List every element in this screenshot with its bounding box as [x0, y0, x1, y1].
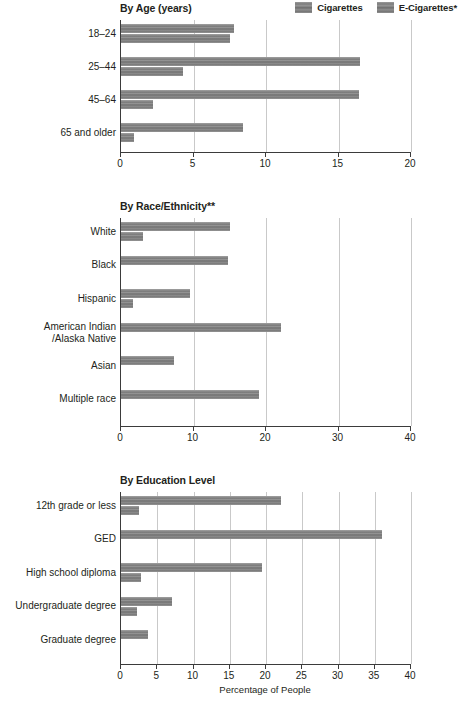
- panel-title: By Education Level: [120, 474, 215, 486]
- plot-area-by-age: 18–2425–4445–6465 and older: [120, 20, 411, 153]
- bar-row: Graduate degree: [121, 630, 411, 649]
- bar-row: GED: [121, 530, 411, 549]
- axis-tick: [374, 665, 375, 669]
- axis-tick: [193, 427, 194, 431]
- axis-tick: [120, 427, 121, 431]
- plot-area-by-education-level: 12th grade or lessGEDHigh school diploma…: [120, 492, 411, 665]
- bar-row: Asian: [121, 356, 411, 375]
- category-label: Graduate degree: [40, 634, 116, 646]
- axis-tick: [120, 153, 121, 157]
- bar-ecigarettes: [121, 299, 133, 308]
- bar-row: 12th grade or less: [121, 496, 411, 515]
- gridline: [411, 492, 412, 664]
- bar-cigarettes: [121, 222, 230, 231]
- legend-swatch-ecigarettes: [377, 2, 394, 13]
- legend-item-cigarettes: Cigarettes: [295, 2, 362, 13]
- axis-tick: [410, 427, 411, 431]
- category-label: Undergraduate degree: [15, 600, 116, 612]
- axis-tick-label: 40: [404, 670, 415, 681]
- bar-row: High school diploma: [121, 563, 411, 582]
- category-label: 18–24: [88, 28, 116, 40]
- panel-header: By Education Level: [0, 472, 461, 492]
- bar-row: 25–44: [121, 57, 411, 76]
- category-label: 12th grade or less: [36, 500, 116, 512]
- axis-tick-label: 30: [332, 432, 343, 443]
- axis-tick: [229, 665, 230, 669]
- gridline: [411, 218, 412, 426]
- panel-title: By Age (years): [120, 2, 192, 14]
- bar-row: White: [121, 222, 411, 241]
- legend-label-ecigarettes: E-Cigarettes*: [399, 2, 457, 13]
- category-label: Black: [92, 259, 116, 271]
- panel-header: By Race/Ethnicity**: [0, 198, 461, 218]
- axis-tick: [193, 153, 194, 157]
- axis-tick-label: 5: [153, 670, 159, 681]
- x-axis-title: Percentage of People: [219, 684, 310, 695]
- axis-tick-label: 35: [368, 670, 379, 681]
- bar-row: American Indian/Alaska Native: [121, 323, 411, 342]
- bar-row: Hispanic: [121, 289, 411, 308]
- axis-tick: [338, 427, 339, 431]
- chart-panel-by-race-ethnicity: By Race/Ethnicity** WhiteBlackHispanicAm…: [0, 198, 461, 447]
- bar-cigarettes: [121, 597, 172, 606]
- category-label: GED: [94, 533, 116, 545]
- category-label: Asian: [91, 360, 116, 372]
- category-label: American Indian/Alaska Native: [44, 321, 116, 344]
- bar-cigarettes: [121, 289, 190, 298]
- category-label: 45–64: [88, 94, 116, 106]
- axis-tick: [338, 665, 339, 669]
- bar-cigarettes: [121, 323, 281, 332]
- bar-ecigarettes: [121, 506, 139, 515]
- category-label: Multiple race: [59, 393, 116, 405]
- category-label: High school diploma: [26, 567, 116, 579]
- bar-row: Undergraduate degree: [121, 597, 411, 616]
- axis-tick-label: 10: [187, 670, 198, 681]
- bar-ecigarettes: [121, 67, 183, 76]
- panel-header: By Age (years) Cigarettes E-Cigarettes*: [0, 0, 461, 20]
- bar-cigarettes: [121, 256, 228, 265]
- axis-tick: [410, 665, 411, 669]
- bar-row: Multiple race: [121, 390, 411, 409]
- axis-tick-label: 20: [259, 432, 270, 443]
- bar-ecigarettes: [121, 100, 153, 109]
- bar-row: 45–64: [121, 90, 411, 109]
- bar-rows: 12th grade or lessGEDHigh school diploma…: [121, 492, 411, 664]
- x-axis-by-race-ethnicity: 010203040: [120, 427, 410, 447]
- bar-ecigarettes: [121, 232, 143, 241]
- bar-cigarettes: [121, 630, 148, 639]
- bar-ecigarettes: [121, 573, 141, 582]
- legend-swatch-cigarettes: [295, 2, 312, 13]
- legend-item-ecigarettes: E-Cigarettes*: [377, 2, 457, 13]
- axis-tick: [301, 665, 302, 669]
- axis-tick: [265, 153, 266, 157]
- axis-tick: [156, 665, 157, 669]
- panel-title: By Race/Ethnicity**: [120, 200, 215, 212]
- category-label: 25–44: [88, 61, 116, 73]
- bar-row: 18–24: [121, 24, 411, 43]
- axis-tick-label: 0: [117, 432, 123, 443]
- bar-row: Black: [121, 256, 411, 275]
- bar-cigarettes: [121, 57, 360, 66]
- chart-panel-by-education-level: By Education Level 12th grade or lessGED…: [0, 472, 461, 685]
- axis-tick-label: 10: [259, 158, 270, 169]
- bar-ecigarettes: [121, 607, 137, 616]
- bar-cigarettes: [121, 356, 174, 365]
- chart-panel-by-age: By Age (years) Cigarettes E-Cigarettes* …: [0, 0, 461, 173]
- axis-tick-label: 40: [404, 432, 415, 443]
- axis-tick: [410, 153, 411, 157]
- axis-tick-label: 10: [187, 432, 198, 443]
- axis-tick: [120, 665, 121, 669]
- axis-tick: [265, 665, 266, 669]
- bar-rows: WhiteBlackHispanicAmerican Indian/Alaska…: [121, 218, 411, 426]
- category-label: Hispanic: [78, 293, 116, 305]
- bar-cigarettes: [121, 563, 262, 572]
- legend-label-cigarettes: Cigarettes: [317, 2, 362, 13]
- axis-tick-label: 0: [117, 670, 123, 681]
- x-axis-by-education-level: Percentage of People 0510152025303540: [120, 665, 410, 685]
- bar-rows: 18–2425–4445–6465 and older: [121, 20, 411, 152]
- axis-tick-label: 15: [332, 158, 343, 169]
- category-label: 65 and older: [60, 127, 116, 139]
- axis-tick-label: 5: [190, 158, 196, 169]
- gridline: [411, 20, 412, 152]
- chart-legend: Cigarettes E-Cigarettes*: [295, 2, 457, 13]
